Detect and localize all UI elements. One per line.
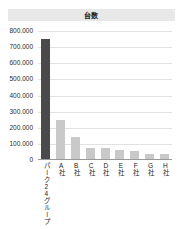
y-axis-tick-label: 300.000 — [0, 108, 33, 115]
x-axis-label: パーク24グループ — [42, 162, 49, 225]
y-axis-tick-label: 200.000 — [0, 125, 33, 132]
bar — [145, 154, 154, 159]
bar — [41, 39, 50, 159]
x-axis-label: E社 — [116, 162, 123, 176]
bar-slot — [38, 31, 53, 159]
x-axis-label: D社 — [102, 162, 109, 176]
y-axis-tick-label: 600.000 — [0, 60, 33, 67]
y-axis-tick-label: 100.000 — [0, 141, 33, 148]
x-axis-label: H社 — [161, 162, 168, 176]
x-label-slot: パーク24グループ — [38, 162, 53, 228]
x-label-slot: A社 — [53, 162, 68, 228]
x-axis-label: C社 — [87, 162, 94, 176]
x-label-slot: B社 — [68, 162, 83, 228]
x-axis-label: G社 — [146, 162, 153, 176]
y-axis-tick-labels: 800.000700.000600.000500.000400.000300.0… — [0, 31, 35, 160]
bar-slot — [53, 31, 68, 159]
x-label-slot: G社 — [142, 162, 157, 228]
bar-series — [38, 31, 172, 159]
bar — [71, 137, 80, 159]
x-label-slot: H社 — [157, 162, 172, 228]
x-label-slot: F社 — [127, 162, 142, 228]
chart-title: 台数 — [84, 12, 99, 19]
bar — [160, 154, 169, 159]
bar — [130, 151, 139, 159]
bar — [115, 150, 124, 159]
x-label-slot: C社 — [83, 162, 98, 228]
x-label-slot: D社 — [98, 162, 113, 228]
bar-slot — [98, 31, 113, 159]
x-axis-label: F社 — [131, 162, 138, 176]
plot-area — [38, 31, 172, 160]
x-label-slot: E社 — [112, 162, 127, 228]
bar-slot — [142, 31, 157, 159]
chart-container: 台数 800.000700.000600.000500.000400.00030… — [0, 0, 179, 229]
y-axis-tick-label: 0 — [0, 157, 33, 164]
bar-slot — [112, 31, 127, 159]
y-axis-tick-label: 700.000 — [0, 44, 33, 51]
x-axis-label: A社 — [57, 162, 64, 176]
bar — [86, 148, 95, 159]
y-axis-tick-label: 500.000 — [0, 76, 33, 83]
bar-slot — [83, 31, 98, 159]
bar — [101, 148, 110, 159]
bar — [56, 120, 65, 159]
x-axis-line — [38, 159, 172, 160]
x-axis-category-labels: パーク24グループA社B社C社D社E社F社G社H社 — [38, 162, 172, 228]
bar-slot — [157, 31, 172, 159]
bar-slot — [68, 31, 83, 159]
chart-title-bar: 台数 — [8, 9, 175, 21]
y-axis-tick-label: 400.000 — [0, 92, 33, 99]
bar-slot — [127, 31, 142, 159]
y-axis-tick-label: 800.000 — [0, 28, 33, 35]
x-axis-label: B社 — [72, 162, 79, 176]
